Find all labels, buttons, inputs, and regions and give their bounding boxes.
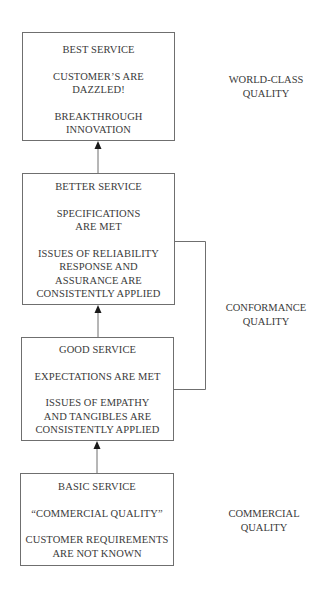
box-text: CUSTOMER’S ARE (23, 70, 174, 84)
label-text: WORLD-CLASS (211, 73, 321, 87)
world-class-quality-label: WORLD-CLASS QUALITY (211, 73, 321, 100)
box-text: CUSTOMER REQUIREMENTS (17, 533, 177, 547)
good-service-box: GOOD SERVICE EXPECTATIONS ARE MET ISSUES… (21, 337, 174, 441)
box-text: CONSISTENTLY APPLIED (23, 287, 174, 301)
label-text: CONFORMANCE (211, 301, 321, 315)
basic-service-box: BASIC SERVICE “COMMERCIAL QUALITY” CUSTO… (20, 473, 174, 566)
box-text: ARE MET (23, 220, 174, 234)
best-service-box: BEST SERVICE CUSTOMER’S ARE DAZZLED! BRE… (22, 32, 175, 141)
conformance-quality-label: CONFORMANCE QUALITY (211, 301, 321, 328)
arrow-up-icon (95, 305, 102, 313)
arrow-up-icon (94, 441, 101, 449)
box-text: EXPECTATIONS ARE MET (22, 370, 173, 384)
box-text: BREAKTHROUGH (23, 110, 174, 124)
box-text: CONSISTENTLY APPLIED (22, 423, 173, 437)
label-text: COMMERCIAL (209, 507, 319, 521)
box-text: “COMMERCIAL QUALITY” (21, 507, 173, 521)
box-text: ISSUES OF EMPATHY (22, 396, 173, 410)
box-text: ARE NOT KNOWN (21, 547, 173, 561)
label-text: QUALITY (209, 521, 319, 535)
better-service-box: BETTER SERVICE SPECIFICATIONS ARE MET IS… (22, 173, 175, 305)
label-text: QUALITY (211, 87, 321, 101)
box-title: BASIC SERVICE (21, 480, 173, 494)
box-text: AND TANGIBLES ARE (22, 410, 173, 424)
box-text: DAZZLED! (23, 83, 174, 97)
box-text: ASSURANCE ARE (23, 274, 174, 288)
arrow-up-icon (95, 141, 102, 149)
box-title: GOOD SERVICE (22, 343, 173, 357)
label-text: QUALITY (211, 315, 321, 329)
box-text: INNOVATION (23, 123, 174, 137)
box-title: BEST SERVICE (23, 43, 174, 57)
conformance-bracket (174, 242, 206, 390)
commercial-quality-label: COMMERCIAL QUALITY (209, 507, 319, 534)
box-text: SPECIFICATIONS (23, 207, 174, 221)
box-text: ISSUES OF RELIABILITY (23, 247, 174, 261)
box-title: BETTER SERVICE (23, 180, 174, 194)
box-text: RESPONSE AND (23, 260, 174, 274)
